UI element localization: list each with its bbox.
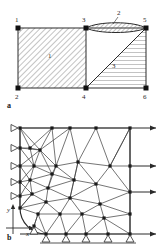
node-1-marker <box>16 26 21 31</box>
node-2-marker <box>16 86 21 91</box>
left-support-2 <box>11 145 18 152</box>
region-1-group: 1 <box>18 28 86 88</box>
node-4-label: 4 <box>82 93 86 101</box>
left-supports <box>11 125 18 200</box>
bottom-support-2 <box>62 235 70 242</box>
figure-b-container: y x <box>0 122 166 251</box>
x-axis <box>6 226 34 230</box>
node-3-label: 3 <box>82 16 86 24</box>
region-2-label: 2 <box>117 9 121 17</box>
bottom-support-1 <box>42 235 50 242</box>
node-3-marker <box>84 26 89 31</box>
region-3-group: 3 <box>86 28 146 88</box>
y-axis <box>11 204 15 234</box>
bottom-supports <box>30 227 136 243</box>
load-arrow-2 <box>130 164 156 169</box>
bottom-support-5 <box>126 235 134 242</box>
load-arrow-4 <box>130 232 156 237</box>
region-2-group: 2 <box>86 9 146 33</box>
figure-b-svg: y x <box>0 122 166 251</box>
figure-b-caption: b <box>7 233 11 242</box>
left-support-3 <box>11 163 18 170</box>
load-arrow-3 <box>130 190 156 195</box>
node-1-label: 1 <box>15 16 19 24</box>
load-arrows <box>130 126 156 237</box>
figure-a-caption: a <box>7 101 11 110</box>
left-support-4 <box>11 179 18 186</box>
y-axis-label: y <box>6 206 11 214</box>
bottom-support-4 <box>104 235 112 242</box>
node-2-label: 2 <box>15 93 19 101</box>
bottom-support-3 <box>82 235 90 242</box>
left-support-5 <box>11 193 18 200</box>
region-1-fill <box>18 28 86 88</box>
node-6-marker <box>144 86 149 91</box>
node-4-marker <box>84 86 89 91</box>
region-1-label: 1 <box>48 52 52 60</box>
figure-a-svg: 1 3 2 1 2 3 4 <box>0 0 166 122</box>
figure-a-container: 1 3 2 1 2 3 4 <box>0 0 166 122</box>
node-6-label: 6 <box>143 93 147 101</box>
region-3-label: 3 <box>112 62 116 70</box>
left-support-1 <box>11 125 18 132</box>
node-5-marker <box>144 26 149 31</box>
load-arrow-1 <box>130 126 156 131</box>
region-2-fill <box>86 23 146 33</box>
node-5-label: 5 <box>143 16 147 24</box>
